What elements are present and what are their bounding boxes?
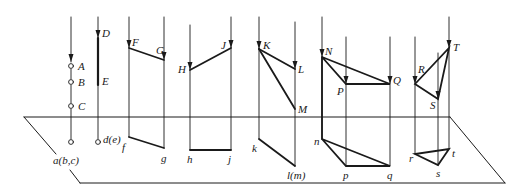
label-K: K (263, 40, 270, 51)
label-de: d(e) (103, 134, 121, 145)
label-G: G (156, 45, 164, 56)
label-n: n (314, 136, 320, 147)
label-A: A (78, 61, 85, 72)
plane-rst-group (413, 17, 452, 165)
label-S: S (430, 100, 436, 111)
plane-npq-group (320, 17, 393, 166)
line-de-group (96, 17, 101, 144)
label-s: s (436, 168, 440, 179)
label-r: r (409, 153, 413, 164)
label-L: L (298, 64, 304, 75)
label-P: P (337, 86, 344, 97)
label-F: F (132, 37, 139, 48)
label-D: D (102, 28, 110, 39)
label-T: T (453, 42, 459, 53)
label-g: g (161, 153, 167, 164)
label-abc: a(b,c) (53, 155, 79, 166)
label-N: N (325, 46, 332, 57)
label-E: E (102, 76, 109, 87)
label-f: f (122, 142, 125, 153)
projection-diagram: A B C D E a(b,c) d(e) F G f g H J h j K … (0, 0, 523, 195)
line-hj-group (188, 17, 234, 150)
label-M: M (298, 104, 307, 115)
projection-plane (24, 117, 505, 183)
points-abc-group (69, 17, 74, 144)
label-J: J (221, 40, 226, 51)
label-q: q (387, 170, 393, 181)
label-H: H (178, 64, 186, 75)
label-j: j (228, 154, 231, 165)
label-Q: Q (393, 75, 401, 86)
label-lm: l(m) (287, 170, 305, 181)
label-B: B (78, 77, 85, 88)
label-k: k (252, 143, 257, 154)
label-t: t (452, 148, 455, 159)
label-p: p (343, 170, 349, 181)
label-C: C (78, 101, 85, 112)
label-h: h (187, 154, 193, 165)
label-R: R (418, 64, 425, 75)
